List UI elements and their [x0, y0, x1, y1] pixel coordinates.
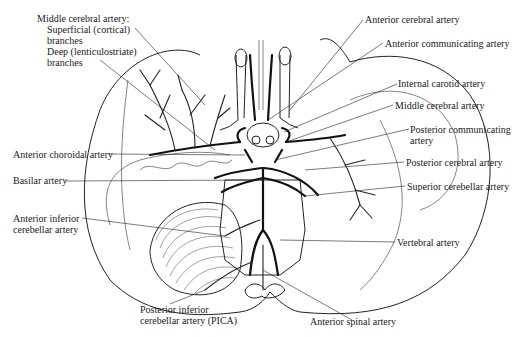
posterior-communicating	[245, 150, 282, 162]
label-mca-superficial-1: Superficial (cortical)	[37, 24, 187, 35]
label-posterior-cerebral-artery: Posterior cerebral artery	[406, 157, 503, 168]
midline-fissure	[259, 40, 263, 110]
anterior-cerebral-right	[268, 55, 272, 120]
left-cerebellum	[150, 202, 242, 294]
vertebral-left	[250, 230, 263, 275]
label-posterior-inferior-cerebellar-artery: Posterior inferior cerebellar artery (PI…	[140, 304, 237, 326]
diagram-canvas: Middle cerebral artery: Superficial (cor…	[0, 0, 532, 337]
label-anterior-cerebral-artery: Anterior cerebral artery	[365, 14, 459, 25]
label-pcomm-line2: artery	[410, 135, 511, 146]
right-sulcus	[360, 120, 402, 290]
mammillary-left	[252, 136, 260, 144]
anterior-cerebral-left	[250, 55, 255, 120]
label-anterior-inferior-cerebellar-artery: Anterior inferior cerebellar artery	[13, 213, 79, 235]
choroid-plexus	[140, 160, 232, 170]
optic-chiasm	[247, 123, 279, 147]
label-middle-cerebral-artery: Middle cerebral artery	[395, 100, 484, 111]
label-anterior-spinal-artery: Anterior spinal artery	[310, 316, 396, 327]
label-vertebral-artery: Vertebral artery	[397, 237, 459, 248]
label-middle-cerebral-group: Middle cerebral artery: Superficial (cor…	[37, 13, 187, 68]
label-mca-heading: Middle cerebral artery:	[37, 13, 129, 24]
label-pica-line2: cerebellar artery (PICA)	[140, 315, 237, 326]
aica-left	[225, 220, 260, 236]
label-posterior-communicating-artery: Posterior communicating artery	[410, 124, 511, 146]
label-mca-deep-2: branches	[37, 57, 187, 68]
label-basilar-artery: Basilar artery	[13, 175, 67, 186]
label-anterior-communicating-artery: Anterior communicating artery	[385, 38, 509, 49]
mca-right	[286, 135, 345, 142]
label-anterior-choroidal-artery: Anterior choroidal artery	[13, 149, 113, 160]
right-cortical-branches	[330, 138, 375, 220]
label-mca-deep-1: Deep (lenticulostriate)	[37, 46, 187, 57]
vertebral-right	[263, 230, 278, 275]
label-mca-superficial-2: branches	[37, 35, 187, 46]
label-internal-carotid-artery: Internal carotid artery	[398, 78, 485, 89]
mammillary-right	[266, 136, 274, 144]
mca-cortical-branches	[140, 70, 230, 150]
left-olfactory-tract	[220, 55, 246, 130]
label-pica-line1: Posterior inferior	[140, 304, 237, 315]
posterior-cerebral-left	[215, 168, 262, 178]
right-olfactory-bulb	[279, 47, 291, 65]
cerebellar-folia	[156, 209, 237, 293]
label-superior-cerebellar-artery: Superior cerebellar artery	[407, 181, 509, 192]
medulla-base	[245, 284, 285, 298]
posterior-cerebral-right	[264, 168, 318, 195]
internal-carotid-left	[238, 128, 245, 142]
label-aica-line1: Anterior inferior	[13, 213, 79, 224]
label-aica-line2: cerebellar artery	[13, 224, 79, 235]
left-temporal-outline	[106, 152, 230, 225]
label-pcomm-line1: Posterior communicating	[410, 124, 511, 135]
right-olfactory-tract	[280, 55, 298, 128]
left-olfactory-bulb	[235, 49, 247, 67]
